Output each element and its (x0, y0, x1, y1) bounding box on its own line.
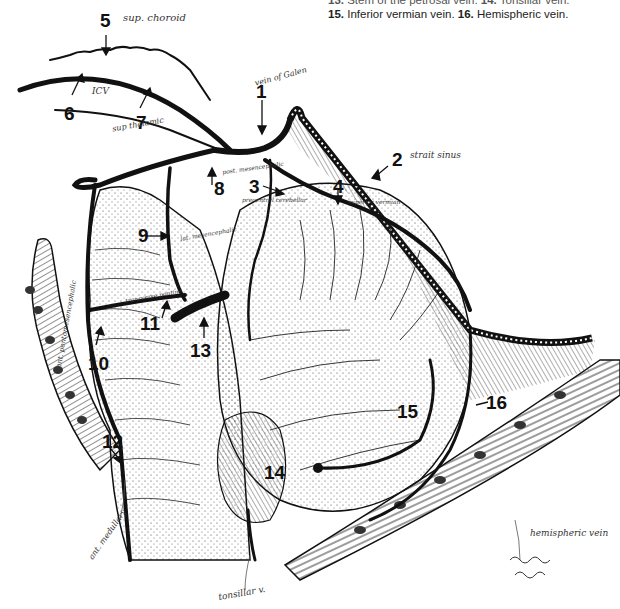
note-strait-sinus: strait sinus (410, 150, 461, 160)
label-2: 2 (392, 149, 403, 171)
note-icv: ICV (92, 86, 109, 96)
label-16: 16 (486, 392, 507, 414)
label-6: 6 (64, 103, 75, 125)
label-5: 5 (100, 10, 111, 32)
vein-post-mesencephalic (75, 150, 215, 188)
label-3: 3 (249, 176, 260, 198)
label-12: 12 (102, 431, 123, 453)
note-precentral: precentral cerebellar (242, 196, 307, 203)
note-sup-choroid: sup. choroid (123, 12, 186, 23)
label-15: 15 (397, 401, 418, 423)
note-superior-vermian: superior vermian (348, 198, 400, 205)
vein-internal-cerebral (20, 79, 230, 150)
label-10: 10 (88, 353, 109, 375)
hemispheric-scribble (510, 557, 550, 578)
label-9: 9 (138, 225, 149, 247)
label-11: 11 (140, 313, 160, 335)
label-14: 14 (264, 462, 285, 484)
note-hemispheric: hemispheric vein (530, 528, 608, 538)
label-4: 4 (333, 176, 344, 198)
label-8: 8 (214, 178, 225, 200)
label-13: 13 (190, 340, 211, 362)
